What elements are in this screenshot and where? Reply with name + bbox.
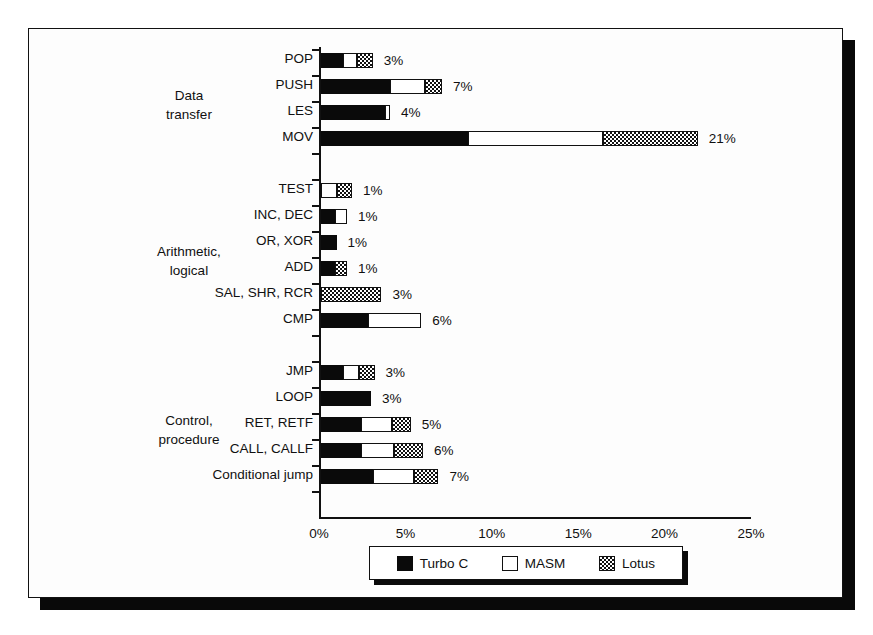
- group-label: Arithmetic,logical: [89, 242, 289, 280]
- bar-value-label: 6%: [434, 443, 454, 458]
- y-axis-tick: [312, 413, 320, 415]
- y-axis-tick: [312, 101, 320, 103]
- bar-value-label: 1%: [363, 183, 383, 198]
- x-axis-tick-label: 10%: [467, 526, 517, 541]
- bar-value-label: 3%: [384, 53, 404, 68]
- bar-row: [321, 261, 347, 276]
- bar-segment-turbo-c: [321, 365, 343, 380]
- bar-segment-turbo-c: [321, 417, 361, 432]
- group-label-line: procedure: [89, 430, 289, 449]
- category-label: SAL, SHR, RCR: [33, 285, 313, 300]
- plot-area: POP3%PUSH7%LES4%MOV21%DatatransferTEST1%…: [29, 29, 844, 599]
- legend-swatch-lotus: [599, 556, 615, 571]
- y-axis-tick: [312, 491, 320, 493]
- bar-value-label: 1%: [348, 235, 368, 250]
- group-label: Datatransfer: [89, 86, 289, 124]
- category-label: JMP: [33, 363, 313, 378]
- bar-segment-masm: [343, 53, 357, 68]
- category-label: TEST: [33, 181, 313, 196]
- x-axis-tick-label: 25%: [726, 526, 776, 541]
- y-axis-tick: [312, 205, 320, 207]
- bar-row: [321, 313, 421, 328]
- bar-segment-masm: [368, 313, 422, 328]
- legend-item: Turbo C: [397, 556, 468, 571]
- group-label: Control,procedure: [89, 411, 289, 449]
- x-axis-tick-label: 5%: [380, 526, 430, 541]
- bar-row: [321, 79, 442, 94]
- category-label: POP: [33, 51, 313, 66]
- group-label-line: transfer: [89, 105, 289, 124]
- category-label: LOOP: [33, 389, 313, 404]
- bar-segment-turbo-c: [321, 261, 335, 276]
- y-axis-tick: [312, 257, 320, 259]
- bar-row: [321, 105, 390, 120]
- bar-value-label: 3%: [382, 391, 402, 406]
- legend-item: Lotus: [599, 556, 655, 571]
- bar-segment-lotus: [425, 79, 442, 94]
- bar-row: [321, 443, 423, 458]
- legend-swatch-masm: [502, 556, 518, 571]
- bar-row: [321, 417, 411, 432]
- bar-segment-masm: [343, 365, 359, 380]
- bar-value-label: 4%: [401, 105, 421, 120]
- category-label: CMP: [33, 311, 313, 326]
- bar-value-label: 1%: [358, 261, 378, 276]
- y-axis-tick: [312, 361, 320, 363]
- y-axis-tick: [312, 231, 320, 233]
- y-axis-tick: [312, 179, 320, 181]
- chart-legend: Turbo CMASMLotus: [369, 546, 683, 580]
- bar-segment-masm: [321, 183, 337, 198]
- y-axis-tick: [312, 127, 320, 129]
- bar-row: [321, 209, 347, 224]
- bar-row: [321, 391, 371, 406]
- legend-label: Lotus: [622, 556, 655, 571]
- bar-segment-masm: [361, 443, 394, 458]
- legend-label: MASM: [525, 556, 566, 571]
- bar-segment-masm: [468, 131, 603, 146]
- bar-segment-lotus: [414, 469, 438, 484]
- bar-row: [321, 183, 352, 198]
- bar-value-label: 7%: [450, 469, 470, 484]
- bar-segment-turbo-c: [321, 79, 390, 94]
- bar-row: [321, 53, 373, 68]
- bar-segment-turbo-c: [321, 235, 337, 250]
- y-axis-tick: [312, 439, 320, 441]
- y-axis-tick: [312, 283, 320, 285]
- bar-row: [321, 469, 438, 484]
- bar-row: [321, 287, 381, 302]
- y-axis-tick: [312, 335, 320, 337]
- group-label-line: Control,: [89, 411, 289, 430]
- figure-container: POP3%PUSH7%LES4%MOV21%DatatransferTEST1%…: [0, 0, 873, 635]
- bar-value-label: 21%: [709, 131, 736, 146]
- bar-value-label: 1%: [358, 209, 378, 224]
- legend-item: MASM: [502, 556, 566, 571]
- bar-segment-turbo-c: [321, 391, 371, 406]
- bar-segment-turbo-c: [321, 469, 373, 484]
- bar-row: [321, 131, 698, 146]
- bar-segment-turbo-c: [321, 105, 385, 120]
- bar-value-label: 6%: [432, 313, 452, 328]
- bar-segment-turbo-c: [321, 131, 468, 146]
- bar-segment-lotus: [359, 365, 375, 380]
- y-axis-tick: [312, 387, 320, 389]
- chart-frame: POP3%PUSH7%LES4%MOV21%DatatransferTEST1%…: [28, 28, 843, 598]
- bar-row: [321, 235, 337, 250]
- bar-value-label: 7%: [453, 79, 473, 94]
- x-axis-tick-label: 20%: [640, 526, 690, 541]
- legend-label: Turbo C: [420, 556, 468, 571]
- bar-segment-masm: [385, 105, 390, 120]
- bar-segment-lotus: [335, 261, 347, 276]
- bar-segment-lotus: [321, 287, 381, 302]
- group-label-line: Arithmetic,: [89, 242, 289, 261]
- group-label-line: logical: [89, 261, 289, 280]
- bar-segment-turbo-c: [321, 53, 343, 68]
- bar-value-label: 3%: [392, 287, 412, 302]
- bar-segment-lotus: [337, 183, 353, 198]
- x-axis-tick-label: 0%: [294, 526, 344, 541]
- y-axis-tick: [312, 309, 320, 311]
- bar-value-label: 3%: [386, 365, 406, 380]
- y-axis-tick: [312, 153, 320, 155]
- category-label: Conditional jump: [33, 467, 313, 482]
- group-label-line: Data: [89, 86, 289, 105]
- bar-segment-masm: [335, 209, 347, 224]
